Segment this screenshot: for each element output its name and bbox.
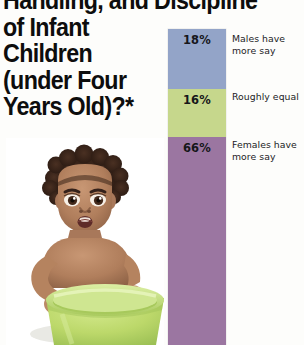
legend-label-equal-line1: Roughly equal: [232, 91, 304, 103]
infographic-panel: Handling, and Discipline of Infant Child…: [0, 0, 304, 345]
bar-value-females: 66%: [183, 141, 211, 155]
legend-label-males-line2: more say: [232, 45, 304, 57]
bar-value-males: 18%: [183, 33, 211, 47]
legend-item-equal: Roughly equal: [232, 91, 304, 103]
title-line-3: Children: [3, 40, 159, 67]
legend-label-females-line2: more say: [232, 151, 304, 163]
infant-photo: [6, 138, 164, 345]
bar-segment-males-have-more-say[interactable]: 18%: [168, 29, 226, 89]
legend-item-females: Females have more say: [232, 139, 304, 162]
bar-segment-roughly-equal[interactable]: 16%: [168, 89, 226, 137]
title-line-4: (under Four: [3, 67, 159, 94]
bar-segment-females-have-more-say[interactable]: 66%: [168, 137, 226, 345]
title-line-1: Handling, and Discipline: [3, 0, 159, 14]
page-title: Handling, and Discipline of Infant Child…: [3, 0, 171, 120]
legend-item-males: Males have more say: [232, 33, 304, 56]
infant-photo-illustration: [6, 138, 164, 345]
title-line-5: Years Old)?*: [3, 93, 159, 120]
stacked-bar-chart: 18% 16% 66%: [168, 29, 226, 345]
title-line-2: of Infant: [3, 14, 159, 41]
bar-value-equal: 16%: [183, 93, 211, 107]
legend-label-males-line1: Males have: [232, 33, 304, 45]
legend-label-females-line1: Females have: [232, 139, 304, 151]
